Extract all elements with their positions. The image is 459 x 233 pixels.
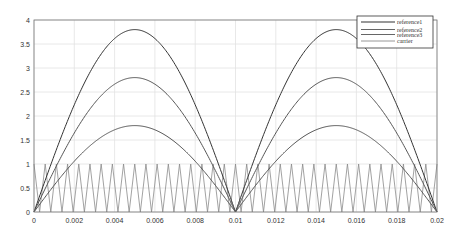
grid	[34, 20, 437, 212]
legend-label: reference3	[397, 32, 422, 38]
x-tick-label: 0.012	[267, 217, 285, 224]
x-tick-label: 0.01	[229, 217, 243, 224]
y-tick-label: 3	[26, 65, 30, 72]
y-axis: 00.511.522.533.54	[20, 17, 30, 216]
legend-label: reference1	[397, 19, 422, 25]
x-axis: 00.0020.0040.0060.0080.010.0120.0140.016…	[32, 217, 444, 224]
chart: 00.0020.0040.0060.0080.010.0120.0140.016…	[0, 0, 459, 233]
x-tick-label: 0.018	[388, 217, 406, 224]
y-tick-label: 1	[26, 161, 30, 168]
x-tick-label: 0.008	[186, 217, 204, 224]
y-tick-label: 4	[26, 17, 30, 24]
y-tick-label: 0.5	[20, 185, 30, 192]
x-tick-label: 0.016	[348, 217, 366, 224]
x-tick-label: 0.006	[146, 217, 164, 224]
x-tick-label: 0.004	[106, 217, 124, 224]
y-tick-label: 1.5	[20, 137, 30, 144]
y-tick-label: 2.5	[20, 89, 30, 96]
legend: reference1reference2reference3carrier	[357, 16, 433, 48]
y-tick-label: 2	[26, 113, 30, 120]
x-tick-label: 0	[32, 217, 36, 224]
x-tick-label: 0.002	[66, 217, 84, 224]
x-tick-label: 0.014	[307, 217, 325, 224]
y-tick-label: 0	[26, 209, 30, 216]
legend-label: carrier	[397, 38, 413, 44]
y-tick-label: 3.5	[20, 41, 30, 48]
x-tick-label: 0.02	[430, 217, 444, 224]
